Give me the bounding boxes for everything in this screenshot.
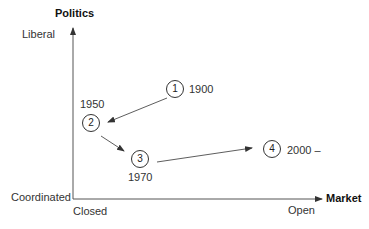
arrow-3-to-4 (157, 148, 252, 162)
y-axis-top-label: Liberal (22, 29, 55, 40)
node-1-year: 1900 (189, 84, 213, 95)
node-2-circle: 2 (82, 114, 100, 132)
node-3-year: 1970 (128, 172, 152, 183)
node-3-circle: 3 (131, 150, 149, 168)
node-4-year: 2000 – (287, 145, 321, 156)
node-4-circle: 4 (263, 140, 281, 158)
x-axis-right-label: Open (288, 205, 315, 216)
politics-market-diagram: Politics Liberal Coordinated Market Clos… (0, 0, 369, 229)
node-2-year: 1950 (80, 99, 104, 110)
arrow-1-to-2 (108, 98, 167, 122)
arrow-2-to-3 (101, 136, 124, 151)
node-1-circle: 1 (166, 80, 184, 98)
y-axis-title: Politics (55, 8, 94, 19)
x-axis-title: Market (326, 193, 361, 204)
y-axis-bottom-label: Coordinated (11, 192, 71, 203)
x-axis-left-label: Closed (73, 206, 107, 217)
